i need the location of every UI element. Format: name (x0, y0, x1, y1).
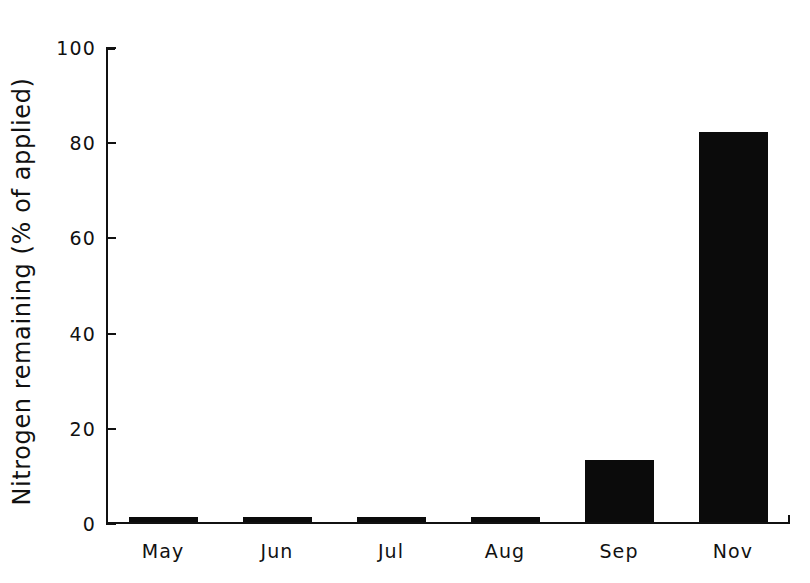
bar (357, 517, 426, 522)
y-axis-tick-label: 60 (69, 227, 96, 249)
y-axis-tick-label: 20 (69, 418, 96, 440)
y-axis-tick-label: 40 (69, 323, 96, 345)
y-axis-tick-mark (106, 523, 116, 525)
bar (129, 517, 198, 522)
y-axis-tick-label: 0 (83, 513, 96, 535)
y-axis-tick-label: 100 (56, 37, 96, 59)
y-axis-tick: 40 (106, 333, 116, 335)
x-axis-tick-label: Sep (562, 540, 676, 562)
bar (243, 517, 312, 522)
x-axis-tick-label: Jun (220, 540, 334, 562)
y-axis-tick-mark (106, 142, 116, 144)
plot-area: 020406080100 MayJunJulAugSepNov (106, 48, 790, 524)
y-axis-line (106, 48, 108, 524)
x-axis-tick-label: Nov (676, 540, 790, 562)
y-axis-tick-label: 80 (69, 132, 96, 154)
y-axis-tick: 60 (106, 237, 116, 239)
axis-frame-right-stub (788, 515, 790, 524)
y-axis-tick: 100 (106, 47, 116, 49)
y-axis-tick: 0 (106, 523, 116, 525)
y-axis-tick-mark (106, 428, 116, 430)
x-axis-tick-label: Jul (334, 540, 448, 562)
bar-chart-figure: Nitrogen remaining (% of applied) 020406… (0, 0, 810, 583)
bar (585, 460, 654, 522)
y-axis-tick-mark (106, 333, 116, 335)
y-axis-tick-mark (106, 47, 116, 49)
y-axis-tick: 20 (106, 428, 116, 430)
x-axis-line (106, 522, 790, 524)
y-axis-tick: 80 (106, 142, 116, 144)
y-axis-title: Nitrogen remaining (% of applied) (0, 0, 44, 583)
x-axis-tick-label: May (106, 540, 220, 562)
bar (471, 517, 540, 522)
bar (699, 132, 768, 522)
y-axis-tick-mark (106, 237, 116, 239)
x-axis-tick-label: Aug (448, 540, 562, 562)
